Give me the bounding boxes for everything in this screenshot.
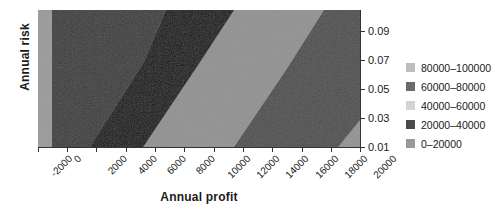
- legend-item: 80000–100000: [406, 58, 491, 77]
- x-axis-title: Annual profit: [38, 190, 360, 204]
- y-tick-label: 0.03: [368, 112, 389, 124]
- legend-item-label: 0–20000: [421, 138, 462, 150]
- x-tick-mark: [96, 148, 97, 152]
- legend-item-label: 60000–80000: [421, 81, 485, 93]
- legend-swatch-icon: [406, 82, 415, 91]
- y-tick-mark: [361, 60, 365, 61]
- y-tick-mark: [361, 118, 365, 119]
- x-tick-mark: [360, 148, 361, 152]
- x-tick-mark: [331, 148, 332, 152]
- x-tick-label: 10000: [225, 153, 252, 180]
- contour-bands-svg: [38, 10, 360, 147]
- legend-item: 60000–80000: [406, 77, 491, 96]
- legend-swatch-icon: [406, 139, 415, 148]
- x-tick-label: 12000: [254, 153, 281, 180]
- y-tick-label: 0.05: [368, 83, 389, 95]
- x-tick-mark: [155, 148, 156, 152]
- x-axis-line: [38, 147, 360, 148]
- y-tick-mark: [361, 147, 365, 148]
- contour-plot-figure: Annual risk: [0, 0, 501, 215]
- x-tick-label: 0: [72, 153, 84, 165]
- x-tick-mark: [67, 148, 68, 152]
- y-tick-label: 0.07: [368, 54, 389, 66]
- x-tick-label: 6000: [165, 153, 189, 177]
- y-tick-mark: [361, 31, 365, 32]
- x-tick-mark: [184, 148, 185, 152]
- legend-item-label: 80000–100000: [421, 62, 491, 74]
- y-tick-label: 0.01: [368, 141, 389, 153]
- x-tick-mark: [243, 148, 244, 152]
- legend-item-label: 40000–60000: [421, 100, 485, 112]
- x-tick-mark: [214, 148, 215, 152]
- x-tick-label: 16000: [313, 153, 340, 180]
- x-tick-label: -2000: [48, 153, 74, 179]
- x-tick-mark: [272, 148, 273, 152]
- x-tick-label: 18000: [342, 153, 369, 180]
- y-tick-mark: [361, 89, 365, 90]
- legend-item-label: 20000–40000: [421, 119, 485, 131]
- legend-swatch-icon: [406, 63, 415, 72]
- y-axis-title: Annual risk: [18, 0, 32, 127]
- legend-item: 20000–40000: [406, 115, 491, 134]
- x-tick-label: 14000: [283, 153, 310, 180]
- legend-item: 40000–60000: [406, 96, 491, 115]
- x-tick-mark: [126, 148, 127, 152]
- plot-area: [38, 10, 360, 147]
- legend: 80000–100000 60000–80000 40000–60000 200…: [406, 58, 491, 153]
- y-tick-label: 0.09: [368, 25, 389, 37]
- x-tick-mark: [302, 148, 303, 152]
- legend-item: 0–20000: [406, 134, 491, 153]
- x-tick-mark: [38, 148, 39, 152]
- x-tick-label: 20000: [371, 153, 398, 180]
- region-left-light-gray: [38, 10, 52, 147]
- legend-swatch-icon: [406, 101, 415, 110]
- legend-swatch-icon: [406, 120, 415, 129]
- x-tick-label: 8000: [194, 153, 218, 177]
- x-tick-label: 2000: [106, 153, 130, 177]
- x-tick-label: 4000: [136, 153, 160, 177]
